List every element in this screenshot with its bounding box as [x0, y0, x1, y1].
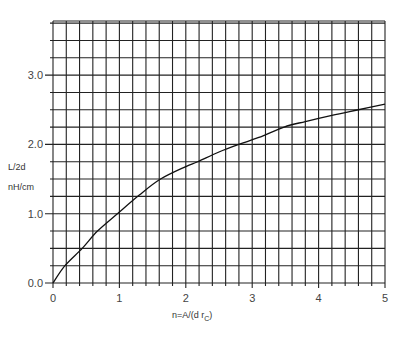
x-tick-label: 1 [116, 292, 122, 304]
chart-canvas: 012345 0.01.02.03.0 L/2d nH/cm n=A/(d rC… [0, 0, 400, 337]
y-axis-label-line2: nH/cm [8, 182, 34, 192]
x-tick-label: 3 [249, 292, 255, 304]
y-tick-labels: 0.01.02.03.0 [28, 69, 43, 289]
x-tick-labels: 012345 [50, 292, 388, 304]
y-axis-label-line1: L/2d [8, 162, 26, 172]
y-tick-label: 2.0 [28, 138, 43, 150]
y-tick-label: 1.0 [28, 208, 43, 220]
grid-lines [45, 21, 385, 288]
x-tick-label: 0 [50, 292, 56, 304]
x-axis-label: n=A/(d rC) [172, 310, 212, 322]
data-curve [53, 104, 385, 283]
x-tick-label: 4 [316, 292, 322, 304]
y-tick-label: 3.0 [28, 69, 43, 81]
x-tick-label: 2 [183, 292, 189, 304]
y-tick-label: 0.0 [28, 277, 43, 289]
x-tick-label: 5 [382, 292, 388, 304]
